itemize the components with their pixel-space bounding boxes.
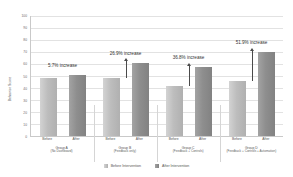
plot-area: 5.7% increase26.9% increase36.8% increas… [30,16,283,137]
y-axis-title: Behavior Score [8,76,12,101]
chart-legend: Before InterventionAfter Intervention [0,164,293,168]
bar-before[interactable] [103,78,120,136]
legend-item[interactable]: Before Intervention [104,164,141,168]
group-label-subtitle: (Feedback only) [93,150,156,154]
bar-group: 51.9% increase [220,16,283,136]
group-label: Group A(No Dashboard) [30,146,93,162]
y-axis-tick: 0 [25,135,27,139]
group-label-subtitle: (Feedback + Controls + Automation) [220,150,283,154]
bar-slot [229,16,246,136]
bar-groups: 5.7% increase26.9% increase36.8% increas… [31,16,283,136]
y-axis-tick: 70 [23,50,27,54]
bar-group: 36.8% increase [157,16,220,136]
bar-after[interactable] [258,52,275,136]
y-axis-tick: 50 [23,75,27,79]
increase-annotation: 5.7% increase [48,63,77,68]
bar-slot [40,16,57,136]
bar-before[interactable] [229,81,246,136]
y-axis-tick-labels: 1009080706050403020100 [13,16,29,137]
group-label-subtitle: (No Dashboard) [30,150,93,154]
group-label-subtitle: (Feedback + Controls) [157,150,220,154]
bar-slot [195,16,212,136]
increase-arrow-icon [189,65,190,86]
y-axis-tick: 20 [23,111,27,115]
group-label: Group B(Feedback only) [93,146,156,162]
legend-swatch-icon [104,164,108,168]
y-axis-tick: 10 [23,123,27,127]
bar-group: 26.9% increase [94,16,157,136]
legend-label: After Intervention [162,164,189,168]
y-axis-tick: 90 [23,26,27,30]
increase-arrow-icon [252,50,253,81]
bar-before[interactable] [166,86,183,136]
y-axis-tick: 60 [23,62,27,66]
legend-item[interactable]: After Intervention [155,164,189,168]
increase-arrow-icon [126,60,127,78]
x-axis-group-labels: Group A(No Dashboard)Group B(Feedback on… [30,146,283,162]
bar-before[interactable] [40,78,57,136]
bar-slot [103,16,120,136]
legend-swatch-icon [155,164,159,168]
y-axis-tick: 100 [21,14,27,18]
bar-chart: Behavior Score 1009080706050403020100 5.… [0,0,293,177]
bar-after[interactable] [69,75,86,136]
bar-after[interactable] [195,67,212,136]
increase-annotation: 36.8% increase [173,55,205,60]
bar-slot [258,16,275,136]
legend-label: Before Intervention [111,164,141,168]
y-axis-tick: 30 [23,99,27,103]
bar-after[interactable] [132,63,149,136]
bar-slot [69,16,86,136]
y-axis-tick: 40 [23,87,27,91]
group-label: Group D(Feedback + Controls + Automation… [220,146,283,162]
y-axis-tick: 80 [23,38,27,42]
bar-slot [166,16,183,136]
increase-annotation: 26.9% increase [110,51,142,56]
bar-group: 5.7% increase [31,16,94,136]
group-label: Group C(Feedback + Controls) [157,146,220,162]
increase-annotation: 51.9% increase [236,40,268,45]
bar-slot [132,16,149,136]
